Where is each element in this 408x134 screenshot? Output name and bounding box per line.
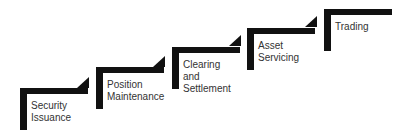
arrow-triangle-icon: [229, 35, 241, 46]
arrow-triangle-icon: [153, 56, 165, 67]
step-top-bar: [96, 67, 164, 73]
step-top-bar: [20, 88, 88, 94]
step-riser-bar: [247, 28, 254, 70]
step-top-bar: [247, 28, 315, 34]
step-top-bar: [172, 47, 240, 53]
step-riser-bar: [324, 9, 331, 51]
step-label: Trading: [335, 21, 369, 33]
step-riser-bar: [20, 88, 27, 130]
arrow-triangle-icon: [305, 16, 317, 27]
step-riser-bar: [172, 47, 179, 89]
arrow-triangle-icon: [77, 77, 89, 88]
step-label: Security Issuance: [31, 100, 71, 124]
step-label: Asset Servicing: [258, 40, 299, 64]
step-label: Position Maintenance: [107, 79, 164, 103]
step-top-bar: [324, 9, 392, 15]
step-label: Clearing and Settlement: [183, 59, 231, 95]
step-riser-bar: [96, 67, 103, 109]
